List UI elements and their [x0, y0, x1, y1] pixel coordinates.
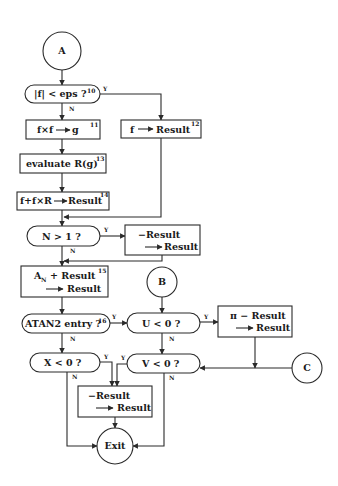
yes-label: Y [103, 353, 109, 360]
no-label: N [169, 335, 175, 342]
step-number: 12 [191, 120, 199, 127]
process-line2: Result [117, 402, 152, 413]
decision-n-gt-1: N > 1 ? Y N [27, 226, 109, 254]
process-line1: −Result [138, 229, 181, 240]
process-evaluate-r: evaluate R(g) 13 [20, 154, 106, 173]
yes-label: Y [111, 313, 117, 320]
process-line2: Result [164, 241, 199, 252]
connector-a-label: A [57, 45, 66, 56]
yes-label: Y [103, 226, 109, 233]
decision-text: ATAN2 entry ? [24, 318, 102, 329]
exit-terminal: Exit [97, 428, 133, 464]
step-number: 16 [98, 317, 106, 324]
connector-b: B [147, 267, 177, 297]
decision-text: N > 1 ? [42, 231, 81, 242]
step-number: 10 [87, 87, 95, 94]
process-line1-b: + Result [50, 270, 96, 281]
process-negate-result-1: −Result Result [125, 225, 200, 255]
connector-c-label: C [303, 362, 311, 373]
connector-b-label: B [158, 276, 166, 287]
step-number: 13 [96, 155, 104, 162]
process-an-plus-result: A N + Result Result 15 [21, 266, 108, 297]
process-line2: Result [67, 283, 102, 294]
process-negate-result-2: −Result Result [78, 386, 152, 417]
yes-label: Y [102, 85, 108, 92]
no-label: N [169, 374, 175, 381]
process-target: Result [68, 195, 103, 206]
decision-abs-f-lt-eps: |f| < eps ? 10 Y N [25, 85, 108, 112]
process-f-to-result: f Result 12 [121, 120, 201, 138]
step-number: 11 [90, 121, 98, 128]
decision-atan2-entry: ATAN2 entry ? 16 Y N [22, 313, 117, 342]
step-number: 14 [100, 191, 108, 198]
connector-a: A [43, 32, 81, 70]
process-text: f×f [37, 124, 54, 135]
step-number: 15 [98, 267, 106, 274]
decision-text: V < 0 ? [141, 358, 180, 369]
decision-text: |f| < eps ? [34, 88, 87, 100]
decision-x-lt-0: X < 0 ? Y N [30, 353, 109, 380]
yes-label: Y [120, 354, 126, 361]
no-label: N [70, 335, 76, 342]
process-line1-sub: N [41, 276, 47, 283]
process-pi-minus-result: π − Result Result [218, 306, 292, 337]
exit-label: Exit [105, 440, 127, 451]
process-f-plus-fxr: f+f×R Result 14 [17, 191, 109, 210]
flowchart: A B C Exit |f| < eps ? 10 Y N f×f g 11 f… [0, 0, 338, 486]
decision-text: U < 0 ? [142, 318, 181, 329]
no-label: N [69, 105, 75, 112]
no-label: N [72, 373, 78, 380]
process-line1: π − Result [230, 310, 286, 321]
connector-c: C [292, 353, 322, 383]
yes-label: Y [203, 313, 209, 320]
decision-u-lt-0: U < 0 ? Y N [127, 313, 209, 342]
process-target: Result [156, 124, 191, 135]
process-target: g [72, 124, 79, 135]
process-text: f+f×R [20, 195, 52, 206]
process-fxf-to-g: f×f g 11 [26, 120, 100, 139]
no-label: N [70, 247, 76, 254]
process-line2: Result [256, 322, 291, 333]
decision-v-lt-0: V < 0 ? Y N [120, 354, 200, 381]
process-line1: −Result [88, 390, 131, 401]
process-text: evaluate R(g) [26, 158, 98, 169]
decision-text: X < 0 ? [44, 357, 82, 368]
